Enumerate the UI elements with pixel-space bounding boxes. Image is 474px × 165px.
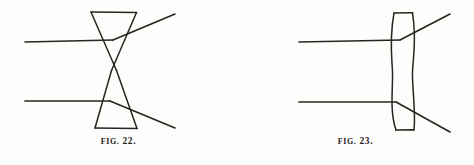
upper-refracted-ray [113, 14, 175, 40]
lens-double-cone [91, 12, 137, 129]
lower-refracted-ray [396, 102, 450, 132]
figure-22-caption: Fig. 22. [0, 136, 237, 146]
upper-incident-ray [25, 40, 113, 42]
figure-22: Fig. 22. [0, 0, 237, 165]
lens-right-lower-side [117, 71, 138, 129]
lower-refracted-ray [110, 101, 175, 128]
figure-23: Fig. 23. [237, 0, 474, 165]
figure-23-caption-number: 23. [359, 136, 373, 146]
illustration-page: Fig. 22. [0, 0, 474, 165]
upper-refracted-ray [400, 14, 450, 40]
lens-bottom-edge [95, 128, 137, 129]
lens-biconcave [391, 13, 414, 130]
ray-bundle [299, 14, 450, 132]
figure-22-caption-number: 22. [122, 136, 136, 146]
lens-right-upper-side [112, 13, 137, 71]
figure-23-caption: Fig. 23. [237, 136, 474, 146]
figure-22-drawing [0, 0, 237, 134]
lens-top-edge [91, 12, 137, 13]
lens-left-lower-side [95, 71, 112, 129]
figure-23-caption-word: Fig. [338, 137, 357, 146]
figure-23-drawing [237, 0, 474, 134]
lens-left-curved-face [391, 13, 396, 130]
figure-22-caption-word: Fig. [101, 137, 120, 146]
upper-incident-ray [299, 40, 400, 42]
